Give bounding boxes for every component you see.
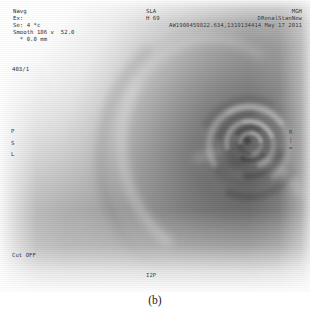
study-date: May 17 2011 [264, 22, 302, 28]
inferior-marker-overlay: I2P [146, 272, 156, 279]
right-edge-marker-overlay: R | = [289, 128, 292, 152]
figure-caption: (b) [0, 294, 310, 306]
series-number-overlay: 403/1 [12, 66, 29, 73]
study-info-overlay: Navg Ex: Se: 4 *c Smooth 186 v 52.0 * 0.… [13, 8, 75, 43]
slice-info-overlay: SLA H 69 [146, 8, 160, 22]
scanline-texture [0, 0, 310, 292]
institution-lines: MGH DRenalStanNew [258, 8, 302, 21]
orientation-markers-overlay: P S L [11, 126, 14, 161]
cutoff-label-overlay: Cut OFF [12, 252, 36, 259]
patient-id-overlay: AW1900459822.634,1319134414 [169, 22, 261, 29]
medical-image-viewer: Navg Ex: Se: 4 *c Smooth 186 v 52.0 * 0.… [0, 0, 310, 318]
scan-image-canvas[interactable]: Navg Ex: Se: 4 *c Smooth 186 v 52.0 * 0.… [0, 0, 310, 292]
institution-protocol-overlay: MGH DRenalStanNew May 17 2011 [258, 8, 302, 29]
